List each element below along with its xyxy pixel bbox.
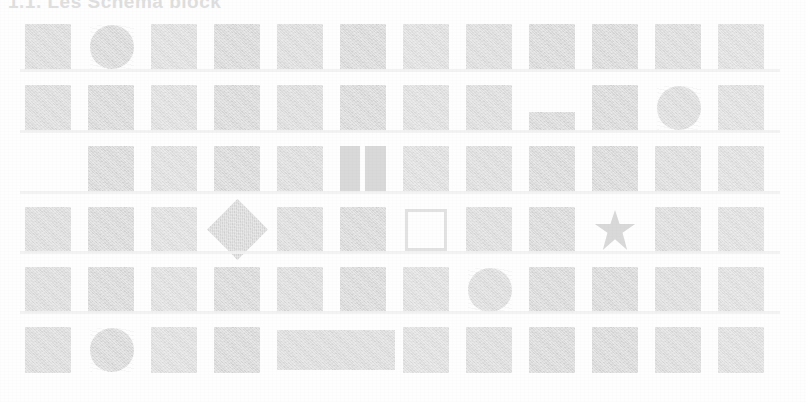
square-icon bbox=[403, 146, 449, 192]
shape-cell-square bbox=[529, 267, 575, 313]
square-icon bbox=[25, 267, 71, 313]
shape-cell-square bbox=[340, 24, 386, 70]
square-icon bbox=[25, 207, 71, 253]
shape-cell-square bbox=[151, 267, 197, 313]
scan-ghost-line bbox=[20, 311, 780, 314]
scan-ghost-line bbox=[20, 251, 780, 254]
shape-cell-square bbox=[277, 146, 323, 192]
square-icon bbox=[466, 146, 512, 192]
shape-cell-square bbox=[403, 85, 449, 131]
square-icon bbox=[25, 24, 71, 70]
square-icon bbox=[466, 85, 512, 131]
shape-cell-square bbox=[151, 327, 197, 373]
square-icon bbox=[214, 327, 260, 373]
square-icon bbox=[529, 24, 575, 70]
square-icon bbox=[151, 327, 197, 373]
shape-cell-square bbox=[655, 207, 701, 253]
square-icon bbox=[592, 85, 638, 131]
shape-cell-square bbox=[466, 327, 512, 373]
shape-cell-square bbox=[25, 207, 71, 253]
shape-cell-square bbox=[718, 85, 764, 131]
shape-cell-square bbox=[403, 267, 449, 313]
shape-grid-row bbox=[0, 257, 806, 315]
square-icon bbox=[718, 85, 764, 131]
square-icon bbox=[151, 207, 197, 253]
square-icon bbox=[151, 146, 197, 192]
square-icon bbox=[655, 207, 701, 253]
shape-cell-square bbox=[403, 24, 449, 70]
shape-cell-square bbox=[151, 24, 197, 70]
shape-cell-square bbox=[277, 207, 323, 253]
shape-cell-square bbox=[466, 146, 512, 192]
square-icon bbox=[151, 24, 197, 70]
square-icon bbox=[529, 267, 575, 313]
square-icon bbox=[340, 267, 386, 313]
square-icon bbox=[214, 267, 260, 313]
shape-cell-square bbox=[529, 327, 575, 373]
shape-cell-square bbox=[214, 24, 260, 70]
shape-cell-square bbox=[466, 85, 512, 131]
square-icon bbox=[151, 267, 197, 313]
shape-cell-square bbox=[151, 207, 197, 253]
hollow-square-icon bbox=[405, 209, 447, 251]
shape-cell-wide-bar bbox=[277, 327, 323, 373]
shape-cell-square bbox=[214, 85, 260, 131]
square-icon bbox=[88, 146, 134, 192]
shape-cell-split-square bbox=[340, 146, 386, 192]
split-square-icon bbox=[340, 146, 386, 192]
shape-cell-square bbox=[466, 24, 512, 70]
shape-cell-flat-bar bbox=[529, 85, 575, 131]
shape-cell-square bbox=[592, 85, 638, 131]
shape-cell-square bbox=[466, 207, 512, 253]
circle-icon bbox=[657, 86, 701, 130]
shape-cell-square bbox=[655, 146, 701, 192]
square-icon bbox=[718, 267, 764, 313]
shape-cell-square bbox=[88, 85, 134, 131]
shape-cell-square bbox=[88, 207, 134, 253]
square-icon bbox=[403, 327, 449, 373]
square-icon bbox=[592, 327, 638, 373]
wide-bar-icon bbox=[277, 330, 395, 370]
page-title: 1.1. Les Schéma block bbox=[8, 0, 428, 13]
star-icon bbox=[594, 210, 636, 250]
shape-cell-square bbox=[529, 207, 575, 253]
shape-grid-row bbox=[0, 136, 806, 194]
square-icon bbox=[529, 207, 575, 253]
shape-grid bbox=[0, 14, 806, 378]
square-icon bbox=[718, 327, 764, 373]
square-icon bbox=[529, 327, 575, 373]
square-icon bbox=[214, 85, 260, 131]
scan-ghost-line bbox=[20, 69, 780, 72]
shape-grid-row bbox=[0, 14, 806, 72]
shape-cell-circle bbox=[655, 85, 701, 131]
shape-cell-square bbox=[88, 267, 134, 313]
square-icon bbox=[403, 85, 449, 131]
square-icon bbox=[466, 327, 512, 373]
square-icon bbox=[340, 85, 386, 131]
shape-cell-square bbox=[529, 146, 575, 192]
square-icon bbox=[466, 24, 512, 70]
shape-cell-star bbox=[592, 207, 638, 253]
shape-cell-square bbox=[214, 146, 260, 192]
square-icon bbox=[718, 24, 764, 70]
shape-grid-row bbox=[0, 197, 806, 255]
circle-icon bbox=[468, 268, 512, 312]
square-icon bbox=[277, 207, 323, 253]
square-icon bbox=[655, 267, 701, 313]
shape-cell-circle bbox=[466, 267, 512, 313]
shape-cell-diamond bbox=[214, 207, 260, 253]
shape-cell-square bbox=[718, 146, 764, 192]
square-icon bbox=[214, 24, 260, 70]
shape-cell-square bbox=[277, 85, 323, 131]
shape-cell-square bbox=[718, 267, 764, 313]
shape-cell-hollow-square bbox=[403, 207, 449, 253]
shape-cell-square bbox=[277, 267, 323, 313]
shape-cell-square bbox=[25, 327, 71, 373]
square-icon bbox=[277, 146, 323, 192]
square-icon bbox=[718, 146, 764, 192]
square-icon bbox=[592, 24, 638, 70]
shape-cell-square bbox=[25, 267, 71, 313]
square-icon bbox=[25, 85, 71, 131]
square-icon bbox=[655, 24, 701, 70]
square-icon bbox=[340, 24, 386, 70]
